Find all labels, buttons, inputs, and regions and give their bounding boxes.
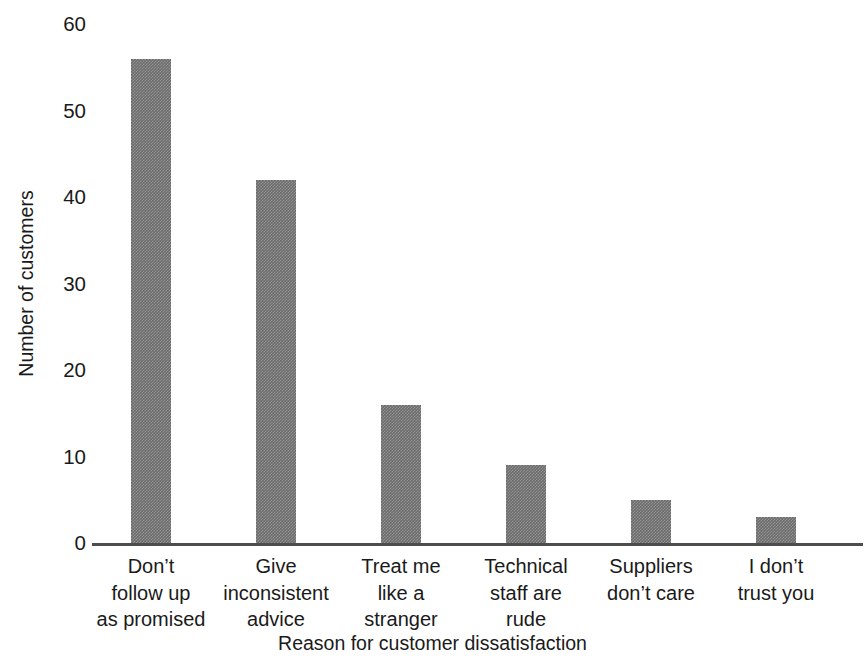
plot-area: 0102030405060 Don’tfollow upas promisedG… — [0, 0, 865, 663]
x-axis-tick-label-line: trust you — [701, 580, 851, 607]
bar — [256, 180, 296, 543]
bar — [631, 500, 671, 543]
x-axis-tick-label-line: I don’t — [701, 553, 851, 580]
bar — [506, 465, 546, 543]
x-axis-tick-label-line: rude — [451, 606, 601, 633]
bar — [756, 517, 796, 543]
x-axis-baseline — [92, 543, 863, 546]
x-axis-tick-label: I don’ttrust you — [701, 553, 851, 606]
x-axis-title: Reason for customer dissatisfaction — [0, 632, 865, 655]
y-axis-tick-label: 60 — [6, 14, 86, 34]
bar — [131, 59, 171, 543]
y-axis-tick-label: 30 — [6, 274, 86, 294]
y-axis-tick-label: 0 — [6, 533, 86, 553]
y-axis-tick-label: 20 — [6, 360, 86, 380]
bar — [381, 405, 421, 543]
y-axis-tick-label: 40 — [6, 187, 86, 207]
bar-chart: Number of customers 0102030405060 Don’tf… — [0, 0, 865, 663]
y-axis-tick-label: 10 — [6, 447, 86, 467]
y-axis-tick-label: 50 — [6, 101, 86, 121]
